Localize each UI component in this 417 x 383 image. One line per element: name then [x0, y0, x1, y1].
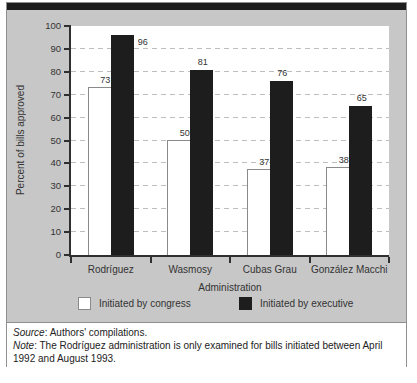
- y-tick-40: [64, 162, 71, 164]
- x-axis-title: Administration: [71, 282, 389, 293]
- y-tick-label-0: 0: [25, 249, 61, 260]
- bar-congress-wasmosy: [167, 140, 192, 256]
- category-label-cubas-grau: Cubas Grau: [230, 264, 310, 275]
- bar-executive-wasmosy: [190, 70, 213, 255]
- y-tick-label-90: 90: [25, 43, 61, 54]
- figure-box: Percent of bills approved 73965081377638…: [6, 2, 407, 367]
- source-line: Source: Authors' compilations.: [13, 326, 400, 339]
- y-tick-50: [64, 140, 71, 142]
- congress-swatch-icon: [78, 297, 91, 310]
- bar-executive-cubas-grau: [270, 81, 293, 255]
- x-tick-1: [150, 257, 152, 263]
- y-tick-20: [64, 208, 71, 210]
- category-label-wasmosy: Wasmosy: [151, 264, 231, 275]
- y-tick-60: [64, 117, 71, 119]
- note-label: Note: [13, 340, 34, 351]
- y-tick-label-30: 30: [25, 180, 61, 191]
- legend-label-executive: Initiated by executive: [260, 298, 353, 309]
- y-axis-title-text: Percent of bills approved: [15, 85, 26, 195]
- x-tick-0: [70, 257, 72, 263]
- x-tick-2: [229, 257, 231, 263]
- note-line: Note: The Rodríguez administration is on…: [13, 339, 400, 365]
- y-tick-label-70: 70: [25, 89, 61, 100]
- category-label-rodr-guez: Rodríguez: [71, 264, 151, 275]
- x-tick-3: [309, 257, 311, 263]
- figure-footnote: Source: Authors' compilations. Note: The…: [7, 322, 406, 367]
- y-tick-0: [64, 254, 71, 256]
- bar-congress-rodr-guez: [88, 87, 113, 255]
- executive-swatch-icon: [239, 297, 252, 310]
- category-label-gonz-lez-macchi: González Macchi: [310, 264, 390, 275]
- plot-area: 7396508137763865: [69, 26, 389, 257]
- y-tick-label-40: 40: [25, 157, 61, 168]
- y-tick-label-80: 80: [25, 66, 61, 77]
- bar-chart: Percent of bills approved 73965081377638…: [7, 10, 406, 322]
- bar-congress-gonz-lez-macchi: [326, 167, 351, 255]
- legend-item-congress: Initiated by congress: [78, 297, 191, 310]
- y-tick-label-60: 60: [25, 112, 61, 123]
- y-tick-90: [64, 48, 71, 50]
- value-label-executive-rodr-guez: 96: [138, 37, 148, 47]
- bar-executive-rodr-guez: [111, 35, 134, 255]
- value-label-executive-cubas-grau: 76: [270, 68, 295, 78]
- y-tick-label-50: 50: [25, 135, 61, 146]
- y-tick-label-100: 100: [25, 20, 61, 31]
- y-tick-100: [64, 25, 71, 27]
- y-tick-label-20: 20: [25, 203, 61, 214]
- value-label-executive-gonz-lez-macchi: 65: [349, 93, 374, 103]
- note-text: : The Rodríguez administration is only e…: [13, 340, 382, 364]
- figure-top-rule: [7, 3, 406, 10]
- y-tick-10: [64, 231, 71, 233]
- source-label: Source: [13, 327, 45, 338]
- value-label-executive-wasmosy: 81: [190, 57, 215, 67]
- bar-congress-cubas-grau: [247, 169, 272, 255]
- y-tick-30: [64, 185, 71, 187]
- y-tick-80: [64, 71, 71, 73]
- legend-label-congress: Initiated by congress: [99, 298, 191, 309]
- y-tick-label-10: 10: [25, 226, 61, 237]
- bar-executive-gonz-lez-macchi: [349, 106, 372, 255]
- source-text: : Authors' compilations.: [45, 327, 148, 338]
- x-tick-4: [388, 257, 390, 263]
- y-tick-70: [64, 94, 71, 96]
- legend-item-executive: Initiated by executive: [239, 297, 353, 310]
